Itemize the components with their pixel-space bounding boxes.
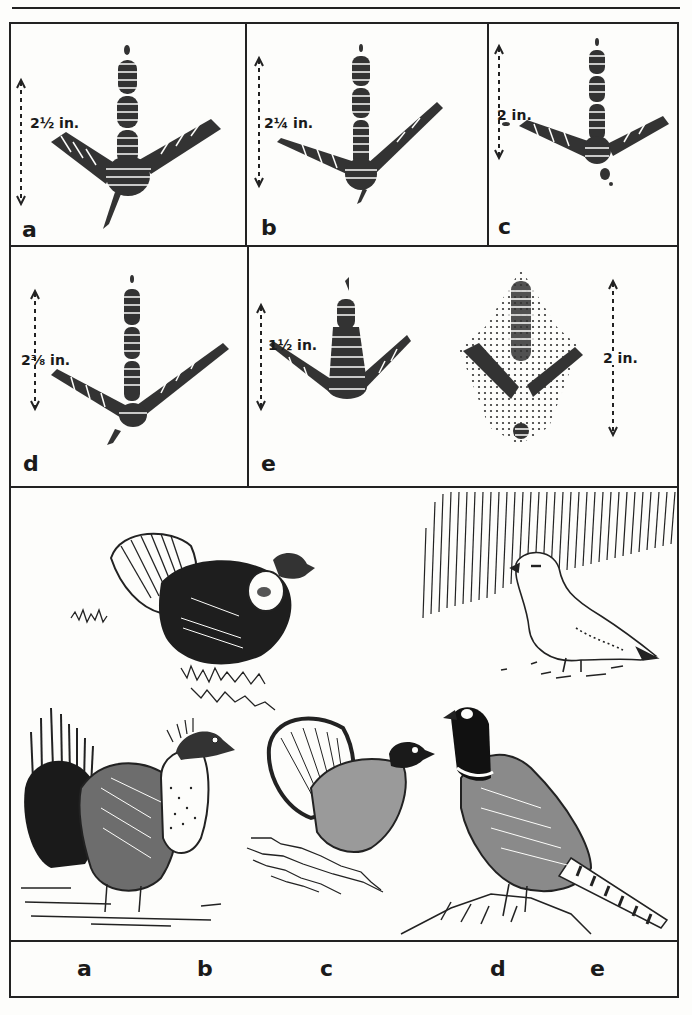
panel-letter-c: c [498, 216, 511, 238]
ptarmigan-ground [501, 662, 623, 678]
figure-frame: 2½ in. a [9, 22, 679, 998]
track-b-icon [247, 24, 487, 245]
species-label-e: e [590, 956, 605, 981]
measurement-label-e: 1½ in. [268, 338, 317, 352]
track-e-icon [249, 247, 677, 486]
pheasant [401, 707, 667, 934]
birds-illustration-icon [11, 488, 677, 940]
species-label-c: c [320, 956, 333, 981]
track-panel-e: 1½ in. 2 in. e [249, 247, 677, 486]
measurement-label-b: 2¼ in. [264, 116, 313, 130]
ruffed-grouse [247, 718, 435, 894]
measurement-label-a: 2½ in. [30, 116, 79, 130]
track-panel-a: 2½ in. a [11, 24, 245, 245]
measurement-label-e-second: 2 in. [601, 351, 640, 365]
track-panel-c: 2 in. c [489, 24, 677, 245]
species-label-strip: a b c d e [11, 940, 677, 998]
top-rule [12, 7, 680, 9]
panel-letter-d: d [23, 453, 39, 475]
species-label-d: d [490, 956, 506, 981]
track-panel-b: 2¼ in. b [247, 24, 487, 245]
panel-letter-a: a [22, 219, 37, 241]
species-label-b: b [197, 956, 213, 981]
panel-letter-b: b [261, 217, 277, 239]
bird-illustrations [11, 488, 677, 940]
track-a-icon [11, 24, 245, 245]
measurement-label-c: 2 in. [497, 108, 532, 122]
sage-grouse [21, 708, 235, 926]
measurement-label-d: 2⅜ in. [21, 353, 70, 367]
track-c-icon [489, 24, 677, 245]
prairie-grouse [71, 534, 315, 710]
ptarmigan [511, 553, 657, 673]
track-panel-d: 2⅜ in. d [11, 247, 247, 486]
panel-letter-e: e [261, 453, 276, 475]
species-label-a: a [77, 956, 92, 981]
